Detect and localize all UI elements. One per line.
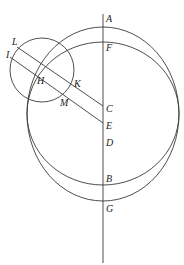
label-H: H: [36, 75, 45, 86]
label-C: C: [106, 103, 113, 114]
label-B: B: [106, 173, 112, 184]
label-L: L: [11, 36, 18, 47]
label-I: I: [5, 49, 10, 60]
geometry-diagram: A F L I H K M C E D B G: [0, 0, 184, 265]
label-A: A: [105, 13, 113, 24]
label-E: E: [105, 120, 112, 131]
label-M: M: [59, 97, 69, 108]
segment-IE: [10, 57, 103, 123]
label-F: F: [105, 42, 113, 53]
label-K: K: [73, 78, 82, 89]
label-G: G: [106, 203, 113, 214]
small-circle-H: [10, 38, 74, 102]
label-D: D: [105, 137, 114, 148]
